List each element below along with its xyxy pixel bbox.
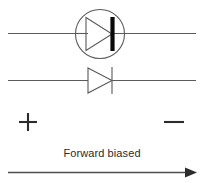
arrow-head-icon — [185, 168, 197, 178]
forward-current-arrow — [8, 168, 197, 178]
positive-sign — [19, 113, 37, 131]
plain-diode-anode-triangle — [88, 68, 112, 93]
circuit-diagram: Forward biased — [0, 0, 204, 183]
diagram-canvas: Forward biased Forward biased diode + − — [0, 0, 204, 183]
diode-anode-triangle — [86, 18, 112, 51]
caption-label: Forward biased — [63, 147, 140, 159]
plain-diode — [88, 67, 112, 94]
